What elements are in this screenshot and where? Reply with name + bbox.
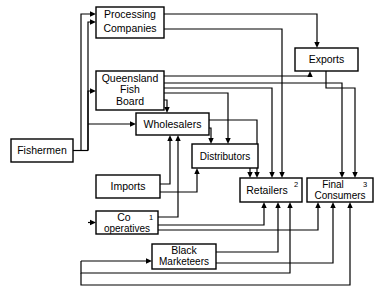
edge-fishermen-processing-outer — [81, 14, 93, 151]
node-processing-companies-label-line1: Processing — [104, 8, 156, 20]
arrowhead-wholesalers-bottom-b — [175, 135, 180, 141]
node-black-marketeers-label-line1: Black — [171, 244, 197, 256]
node-final-consumers-label-line1: Final — [322, 179, 344, 190]
arrowhead-distributors-top — [208, 138, 213, 144]
arrowhead-retailers-bottom-d — [287, 202, 292, 208]
arrowhead-exports-bottom — [307, 71, 312, 77]
edge-fishermen-vertical-trunk — [88, 22, 93, 151]
node-final-consumers-label-line2: Consumers — [314, 190, 365, 201]
node-imports-label: Imports — [110, 180, 145, 192]
arrowhead-processing-a — [90, 11, 96, 16]
arrowhead-consumers-exports — [352, 172, 357, 178]
arrowhead-retailers-d — [279, 172, 284, 178]
node-cooperatives-label-line1: Co — [117, 211, 131, 223]
arrowhead-wholesalers-bottom-a — [167, 135, 172, 141]
node-processing-companies-label-line2: Companies — [103, 22, 156, 34]
edge-exports-consumers — [326, 71, 355, 175]
arrowhead-consumers-bottom-c — [347, 202, 352, 208]
node-retailers[interactable]: Retailers 2 — [240, 178, 302, 202]
arrowhead-retailers-b — [254, 172, 259, 178]
arrowhead-retailers-c — [269, 172, 274, 178]
node-retailers-label: Retailers — [246, 184, 287, 196]
arrowhead-consumers-top — [339, 172, 344, 178]
node-cooperatives-footnote-marker: 1 — [149, 213, 153, 222]
node-wholesalers[interactable]: Wholesalers — [136, 113, 209, 135]
node-fishermen[interactable]: Fishermen — [11, 139, 73, 162]
node-queensland-fish-board[interactable]: Queensland Fish Board — [96, 71, 164, 110]
edge-cooperatives-wholesalers — [158, 138, 178, 217]
flow-diagram-canvas: Fishermen Processing Companies Queenslan… — [0, 0, 380, 294]
node-exports-label: Exports — [309, 53, 345, 65]
node-cooperatives[interactable]: Co 1 operatives — [96, 211, 158, 234]
node-cooperatives-label-line2: operatives — [104, 223, 150, 234]
node-processing-companies[interactable]: Processing Companies — [96, 7, 164, 38]
edge-blackmarketeers-retailers — [216, 205, 278, 252]
node-retailers-footnote-marker: 2 — [294, 180, 298, 189]
arrowhead-distributors-right — [225, 138, 230, 144]
arrowhead-retailers-a — [247, 172, 252, 178]
arrowhead-retailers-bottom-c — [275, 202, 280, 208]
edge-qfb-exports — [164, 74, 310, 76]
node-wholesalers-label: Wholesalers — [144, 118, 202, 130]
arrowhead-consumers-bottom-a — [315, 202, 320, 208]
node-distributors[interactable]: Distributors — [192, 144, 258, 168]
node-black-marketeers-label-line2: Marketeers — [159, 256, 209, 267]
node-queensland-fish-board-label-line2: Fish — [120, 83, 140, 95]
arrowhead-distributors-bottom — [194, 168, 199, 174]
arrowhead-exports-top — [314, 42, 319, 48]
edge-blackmarketeers-consumers — [216, 205, 333, 263]
node-final-consumers-footnote-marker: 3 — [363, 180, 367, 189]
node-imports[interactable]: Imports — [96, 175, 160, 198]
node-final-consumers[interactable]: Final 3 Consumers — [307, 178, 373, 202]
node-fishermen-label: Fishermen — [17, 144, 67, 156]
arrowhead-consumers-bottom-b — [330, 202, 335, 208]
arrowhead-blackmarketeers — [146, 258, 152, 263]
node-exports[interactable]: Exports — [295, 48, 358, 71]
arrowhead-cooperatives — [90, 220, 96, 225]
arrowhead-processing-b — [90, 19, 96, 24]
edge-imports-wholesalers — [160, 138, 170, 184]
arrowhead-wholesalers-left — [130, 121, 136, 126]
arrowhead-retailers-bottom-b — [261, 202, 266, 208]
edge-fishermen-qfb — [88, 91, 93, 151]
arrowhead-qfb — [90, 88, 96, 93]
edge-cooperatives-retailers — [158, 205, 264, 225]
node-distributors-label: Distributors — [200, 151, 251, 162]
node-queensland-fish-board-label-line1: Queensland — [102, 72, 159, 84]
node-queensland-fish-board-label-line3: Board — [116, 95, 144, 107]
edge-cooperatives-consumers — [158, 205, 318, 230]
arrowhead-wholesalers-top — [164, 107, 169, 113]
node-black-marketeers[interactable]: Black Marketeers — [152, 244, 216, 269]
